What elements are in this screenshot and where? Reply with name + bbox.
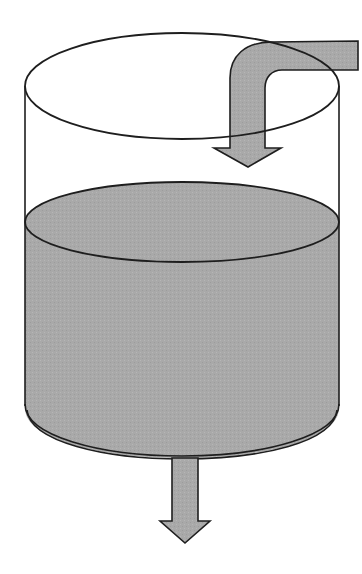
liquid (25, 182, 339, 459)
liquid-surface (25, 182, 339, 262)
inflow-arrow-icon (214, 41, 358, 167)
outflow-arrow-icon (160, 458, 210, 543)
tank-top-rim (25, 33, 339, 139)
tank-diagram (0, 0, 362, 574)
